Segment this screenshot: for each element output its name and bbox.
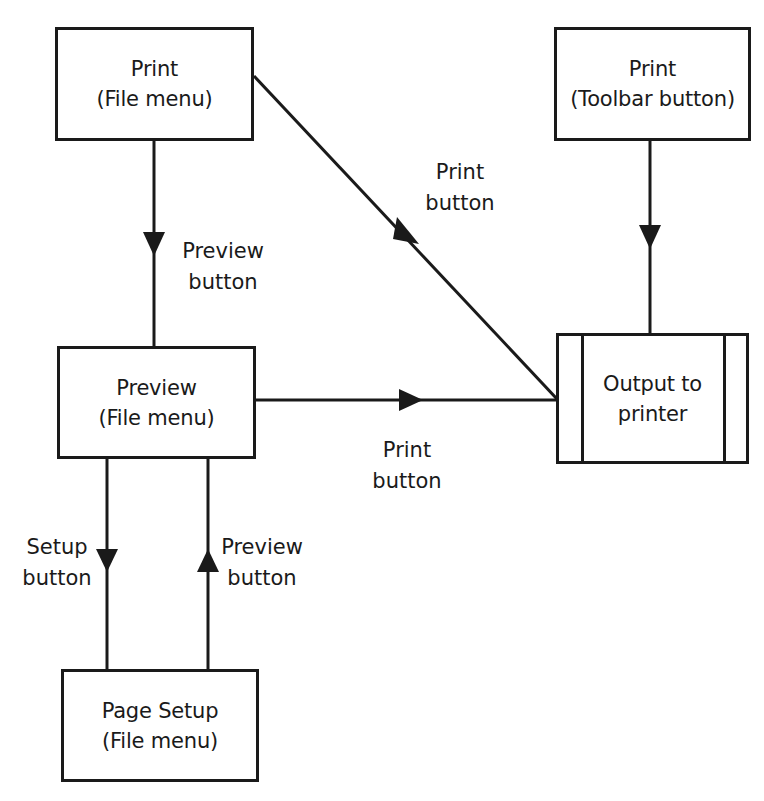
node-subtitle: (Toolbar button) xyxy=(570,84,735,114)
edge-label-line: button xyxy=(405,188,515,219)
edge-label-print-button-diagonal: Print button xyxy=(405,157,515,219)
edge-label-print-button-horizontal: Print button xyxy=(352,435,462,497)
node-output-to-printer: Output to printer xyxy=(556,333,749,464)
node-title: Page Setup xyxy=(102,696,219,726)
edge-label-line: button xyxy=(12,563,102,594)
node-title: Preview xyxy=(116,373,196,403)
flowchart-canvas: Print (File menu) Print (Toolbar button)… xyxy=(0,0,764,801)
node-page-setup-file-menu: Page Setup (File menu) xyxy=(61,669,259,782)
edge-label-line: Print xyxy=(352,435,462,466)
arrowhead-diagonal-icon xyxy=(393,217,419,244)
node-preview-file-menu: Preview (File menu) xyxy=(57,346,256,459)
node-print-toolbar-button: Print (Toolbar button) xyxy=(554,27,751,141)
predefined-process-bar-left xyxy=(581,336,584,461)
edge-label-preview-button-return: Preview button xyxy=(212,532,312,594)
edge-label-setup-button: Setup button xyxy=(12,532,102,594)
node-subtitle: printer xyxy=(618,399,688,429)
edge-label-line: button xyxy=(212,563,312,594)
edge-label-preview-button: Preview button xyxy=(168,236,278,298)
predefined-process-bar-right xyxy=(723,336,726,461)
node-subtitle: (File menu) xyxy=(99,403,215,433)
edge-label-line: button xyxy=(352,466,462,497)
edge-label-line: Print xyxy=(405,157,515,188)
node-title: Print xyxy=(629,54,676,84)
node-subtitle: (File menu) xyxy=(97,84,213,114)
node-title: Print xyxy=(131,54,178,84)
node-subtitle: (File menu) xyxy=(102,726,218,756)
arrowhead-right-icon xyxy=(399,389,423,411)
node-title: Output to xyxy=(603,369,702,399)
edge-label-line: Setup xyxy=(12,532,102,563)
edge-label-line: Preview xyxy=(168,236,278,267)
arrowhead-down-icon xyxy=(639,225,661,249)
edge-label-line: button xyxy=(168,267,278,298)
edge-label-line: Preview xyxy=(212,532,312,563)
node-print-file-menu: Print (File menu) xyxy=(55,27,254,141)
arrowhead-down-icon xyxy=(143,232,165,256)
